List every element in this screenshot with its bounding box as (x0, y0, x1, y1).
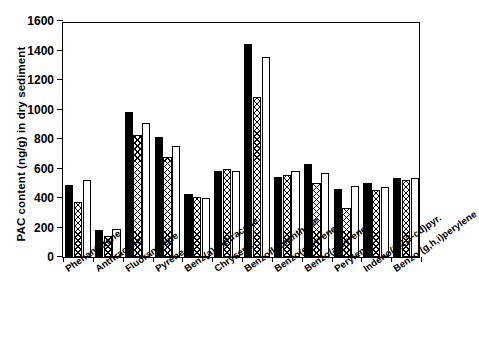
bar (232, 171, 240, 257)
y-tick-label: 1400 (10, 44, 54, 58)
bar (193, 197, 201, 257)
bar-group (212, 23, 242, 257)
y-tick-label: 800 (10, 132, 54, 146)
y-tick-label: 1600 (10, 14, 54, 28)
bar (291, 171, 299, 257)
y-tick-label: 600 (10, 162, 54, 176)
x-tick-mark (302, 257, 303, 262)
x-tick-mark (63, 257, 64, 262)
y-tick-label: 200 (10, 221, 54, 235)
x-tick-mark (123, 257, 124, 262)
bar (262, 57, 270, 257)
bar-group (332, 23, 362, 257)
x-tick-mark (242, 257, 243, 262)
x-tick-mark (391, 257, 392, 262)
bar (321, 173, 329, 257)
x-tick-mark (332, 257, 333, 262)
bar (74, 202, 82, 257)
y-tick-label: 400 (10, 191, 54, 205)
bar-group (123, 23, 153, 257)
bar-group (63, 23, 93, 257)
bar (125, 112, 133, 257)
bar-group (391, 23, 421, 257)
x-tick-mark (212, 257, 213, 262)
bar-group (153, 23, 183, 257)
bar-group (182, 23, 212, 257)
x-tick-mark (153, 257, 154, 262)
y-tick-label: 1200 (10, 73, 54, 87)
bar (65, 185, 73, 257)
bar (253, 97, 261, 257)
bar (184, 194, 192, 257)
bar-group (361, 23, 391, 257)
x-tick-mark (421, 257, 422, 262)
x-tick-mark (272, 257, 273, 262)
y-tick-label: 0 (10, 250, 54, 264)
bar (372, 190, 380, 257)
bar (142, 123, 150, 257)
bar-group (272, 23, 302, 257)
y-tick-mark (57, 20, 63, 21)
x-tick-mark (93, 257, 94, 262)
y-tick-label: 1000 (10, 103, 54, 117)
bar-group (93, 23, 123, 257)
